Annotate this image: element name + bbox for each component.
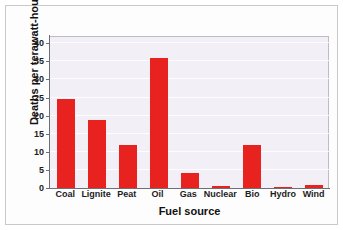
x-tick-label-coal: Coal xyxy=(50,190,81,200)
x-tick-label-gas: Gas xyxy=(173,190,204,200)
bar-oil[interactable] xyxy=(150,58,168,188)
bar-slot xyxy=(267,36,298,188)
chart-page: Deaths per terawatt-hour 051015202530354… xyxy=(0,0,343,230)
x-axis-tick-labels: CoalLignitePeatOilGasNuclearBioHydroWind xyxy=(50,190,329,200)
bar-slot xyxy=(298,36,329,188)
x-tick-label-hydro: Hydro xyxy=(268,190,299,200)
x-tick-label-peat: Peat xyxy=(112,190,143,200)
bar-slot xyxy=(81,36,112,188)
y-tick-label: 40 xyxy=(34,39,44,48)
bar-slot xyxy=(236,36,267,188)
bar-hydro[interactable] xyxy=(274,187,292,188)
chart-plot-area: 0510152025303540 xyxy=(50,36,329,188)
y-tick-label: 20 xyxy=(34,111,44,120)
x-tick-label-nuclear: Nuclear xyxy=(204,190,237,200)
bar-slot xyxy=(50,36,81,188)
y-tick-label: 30 xyxy=(34,75,44,84)
x-tick-label-wind: Wind xyxy=(298,190,329,200)
x-tick-label-oil: Oil xyxy=(142,190,173,200)
bar-slot xyxy=(174,36,205,188)
y-tick-mark xyxy=(46,188,50,189)
bar-coal[interactable] xyxy=(57,99,75,188)
x-tick-label-bio: Bio xyxy=(237,190,268,200)
bar-lignite[interactable] xyxy=(88,120,106,188)
y-tick-label: 15 xyxy=(34,129,44,138)
figure-frame: Deaths per terawatt-hour 051015202530354… xyxy=(5,5,338,225)
y-tick-label: 35 xyxy=(34,57,44,66)
bar-bio[interactable] xyxy=(243,145,261,188)
bar-series xyxy=(50,36,329,188)
bar-peat[interactable] xyxy=(119,145,137,188)
x-tick-label-lignite: Lignite xyxy=(81,190,112,200)
y-tick-label: 5 xyxy=(39,165,44,174)
y-tick-label: 0 xyxy=(39,184,44,193)
x-axis-title: Fuel source xyxy=(50,205,329,217)
bar-wind[interactable] xyxy=(305,185,323,188)
y-tick-label: 25 xyxy=(34,93,44,102)
y-tick-label: 10 xyxy=(34,147,44,156)
bar-slot xyxy=(143,36,174,188)
bar-slot xyxy=(205,36,236,188)
bar-slot xyxy=(112,36,143,188)
bar-gas[interactable] xyxy=(181,173,199,188)
bar-nuclear[interactable] xyxy=(212,186,230,188)
